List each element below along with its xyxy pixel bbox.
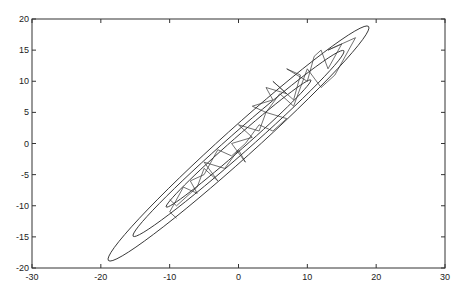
x-tick-label: 20 <box>371 272 381 282</box>
y-tick-label: 0 <box>24 139 29 149</box>
y-tick-label: 5 <box>24 107 29 117</box>
contour-ellipse-middle <box>126 43 350 244</box>
contour-ellipse-inner <box>162 75 315 211</box>
x-tick-label: 0 <box>236 272 241 282</box>
axes-frame <box>32 19 445 268</box>
y-tick-label: 15 <box>19 45 29 55</box>
x-tick-label: 30 <box>440 272 450 282</box>
y-axis: -20-15-10-505101520 <box>16 14 445 273</box>
x-tick-label: -20 <box>94 272 107 282</box>
y-tick-label: -20 <box>16 263 29 273</box>
y-tick-label: 20 <box>19 14 29 24</box>
y-tick-label: -15 <box>16 232 29 242</box>
x-tick-label: 10 <box>302 272 312 282</box>
y-tick-label: 10 <box>19 76 29 86</box>
contour-trace-plot: -30-20-100102030 -20-15-10-505101520 <box>0 0 463 294</box>
trace-line-sampler-path <box>170 38 356 219</box>
y-tick-label: -10 <box>16 201 29 211</box>
x-tick-label: -30 <box>25 272 38 282</box>
x-tick-label: -10 <box>163 272 176 282</box>
plot-area <box>98 15 378 272</box>
y-tick-label: -5 <box>21 170 29 180</box>
